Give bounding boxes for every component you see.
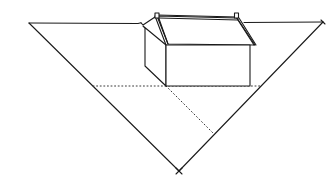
ridge-post-right <box>235 13 239 18</box>
ridge-post-left <box>155 13 159 18</box>
bottom-vertex-x-mark <box>176 168 182 174</box>
gable-edge <box>141 17 155 25</box>
house-front-wall <box>166 45 250 86</box>
perspective-house-drawing <box>0 0 335 184</box>
horizon-line-right <box>244 22 323 23</box>
house <box>141 13 256 86</box>
horizon-line-left <box>29 23 141 24</box>
diagram-canvas <box>0 0 335 184</box>
dotted-diagonal-line <box>166 86 213 133</box>
construction-lines <box>93 86 262 133</box>
